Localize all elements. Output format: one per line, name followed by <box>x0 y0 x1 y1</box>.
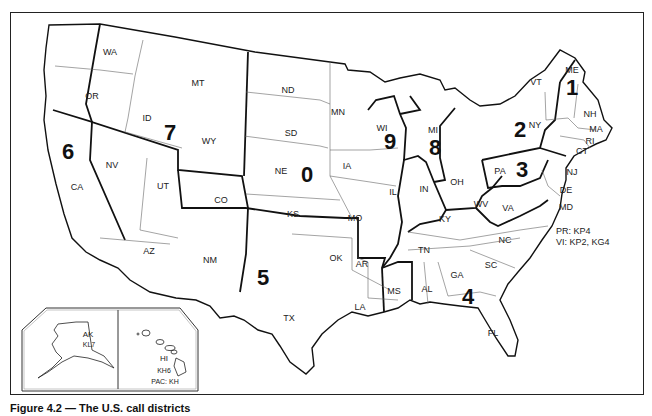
state-label: TN <box>418 245 430 255</box>
state-label: VA <box>502 203 513 213</box>
state-label: CA <box>71 182 84 192</box>
state-label: PA <box>494 166 505 176</box>
state-label: FL <box>488 328 499 338</box>
state-label: AZ <box>143 246 155 256</box>
state-label: KY <box>439 214 451 224</box>
pacific-prefix: PAC: KH <box>151 378 179 385</box>
state-label: AL <box>421 284 432 294</box>
state-label: RI <box>586 136 595 146</box>
us-call-district-map <box>0 0 652 416</box>
alaska-label: AK <box>83 330 94 339</box>
district-5-label: 5 <box>257 265 269 291</box>
district-4-label: 4 <box>462 284 474 310</box>
state-label: DE <box>560 185 573 195</box>
district-7-label: 7 <box>164 120 176 146</box>
state-label: SC <box>485 260 498 270</box>
state-label: IN <box>420 184 429 194</box>
state-label: ND <box>282 85 295 95</box>
state-label: IL <box>389 187 397 197</box>
state-label: MA <box>589 124 603 134</box>
state-label: NE <box>275 166 288 176</box>
state-label: OH <box>450 177 464 187</box>
state-label: NY <box>529 120 542 130</box>
state-label: NM <box>203 255 217 265</box>
district-0-label: 0 <box>301 162 313 188</box>
state-label: WV <box>474 199 489 209</box>
hawaii-prefix: KH6 <box>157 367 171 374</box>
state-label: NJ <box>567 167 578 177</box>
district-1-label: 1 <box>566 75 578 101</box>
state-label: MI <box>428 125 438 135</box>
alaska-shape <box>38 322 114 378</box>
state-label: MO <box>348 213 363 223</box>
state-label: OR <box>85 91 99 101</box>
district-3-label: 3 <box>516 157 528 183</box>
state-label: TX <box>283 313 295 323</box>
state-label: AR <box>356 259 369 269</box>
territories-note: PR: KP4 VI: KP2, KG4 <box>556 226 610 248</box>
alaska-prefix: KL7 <box>83 341 95 348</box>
hawaii-label: HI <box>160 354 168 363</box>
state-label: MD <box>559 202 573 212</box>
district-6-label: 6 <box>62 139 74 165</box>
state-label: ME <box>565 65 579 75</box>
state-label: WA <box>103 47 117 57</box>
district-8-label: 8 <box>429 135 441 161</box>
state-label: GA <box>450 270 463 280</box>
territory-vi: VI: KP2, KG4 <box>556 237 610 248</box>
state-label: IA <box>343 161 352 171</box>
state-label: ID <box>143 113 152 123</box>
state-label: SD <box>285 128 298 138</box>
state-boundaries <box>55 40 596 304</box>
state-label: WY <box>202 136 217 146</box>
district-2-label: 2 <box>514 117 526 143</box>
state-label: NH <box>584 109 597 119</box>
state-label: LA <box>354 302 365 312</box>
state-label: CT <box>576 146 588 156</box>
figure-caption: Figure 4.2 — The U.S. call districts <box>10 402 190 414</box>
state-label: WI <box>377 123 388 133</box>
state-label: CO <box>214 195 228 205</box>
state-label: MS <box>387 286 401 296</box>
state-label: MN <box>331 107 345 117</box>
territory-pr: PR: KP4 <box>556 226 610 237</box>
state-label: OK <box>329 253 342 263</box>
state-label: NV <box>106 160 119 170</box>
state-label: VT <box>530 77 542 87</box>
state-label: NC <box>499 235 512 245</box>
state-label: UT <box>157 181 169 191</box>
state-label: MT <box>192 78 205 88</box>
state-label: KS <box>287 209 299 219</box>
